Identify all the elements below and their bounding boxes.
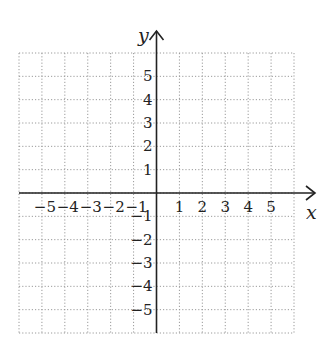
x-tick-label: 1 <box>175 198 185 216</box>
x-tick-label: −4 <box>57 198 79 216</box>
y-tick-label: −2 <box>130 231 152 249</box>
y-tick-label: −5 <box>130 301 152 319</box>
x-tick-label: 4 <box>243 198 253 216</box>
y-tick-label: 5 <box>143 67 153 85</box>
x-tick-label: −3 <box>80 198 102 216</box>
x-tick-label: 5 <box>266 198 276 216</box>
coordinate-plane: xy −5−4−3−2−11234554321−1−2−3−4−5 <box>0 0 331 343</box>
y-tick-label: 4 <box>143 91 153 109</box>
x-axis-label: x <box>306 201 317 223</box>
y-tick-label: −3 <box>130 254 152 272</box>
y-axis-label: y <box>137 24 149 46</box>
x-tick-label: −2 <box>103 198 125 216</box>
x-tick-label: 2 <box>198 198 208 216</box>
y-tick-label: −4 <box>130 277 152 295</box>
x-tick-label: −5 <box>34 198 56 216</box>
y-tick-label: 3 <box>143 114 153 132</box>
y-tick-label: 2 <box>143 137 153 155</box>
y-tick-label: 1 <box>143 161 153 179</box>
x-tick-label: 3 <box>220 198 230 216</box>
y-tick-label: −1 <box>130 207 152 225</box>
